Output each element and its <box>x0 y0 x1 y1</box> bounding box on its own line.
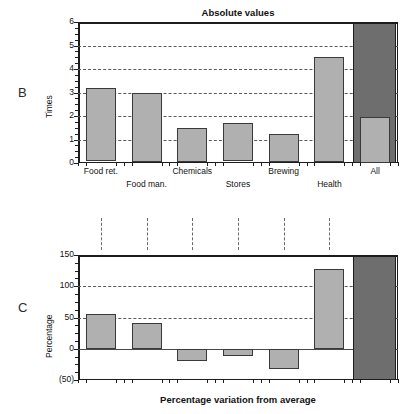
x-tick <box>132 162 133 166</box>
x-tick-label: Stores <box>193 179 283 189</box>
bar-stores <box>223 349 253 356</box>
x-tick <box>124 379 125 383</box>
x-tick-label: Food ret. <box>56 166 146 176</box>
gridline <box>78 93 398 94</box>
x-tick <box>269 379 270 383</box>
x-tick <box>307 162 308 166</box>
figure-root: B Absolute values Times C Percentage Per… <box>0 0 410 414</box>
x-tick <box>390 379 391 383</box>
y-tick <box>75 157 78 158</box>
x-tick <box>360 162 361 166</box>
all-highlight-panel <box>353 257 396 379</box>
y-tick <box>75 325 78 326</box>
chart-plot-area-b <box>78 22 398 163</box>
x-tick <box>398 162 399 166</box>
bar-all <box>360 117 390 163</box>
y-tick <box>75 104 78 105</box>
x-tick <box>253 379 254 383</box>
plot-frame-bottom <box>78 379 398 381</box>
connector-line <box>238 218 239 250</box>
bar-food-ret <box>86 88 116 162</box>
y-tick <box>75 151 78 152</box>
connector-line <box>101 218 102 250</box>
y-tick <box>75 271 78 272</box>
y-tick <box>75 87 78 88</box>
bar-stores <box>223 123 253 161</box>
x-tick <box>162 162 163 166</box>
y-tick <box>75 145 78 146</box>
x-tick <box>86 379 87 383</box>
y-tick <box>75 51 78 52</box>
x-tick <box>360 379 361 383</box>
connector-line <box>192 218 193 250</box>
x-axis-title-percentage-variation: Percentage variation from average <box>78 394 398 405</box>
y-tick-label: 5 <box>32 40 74 50</box>
panel-letter-b: B <box>18 85 27 100</box>
bar-brewing <box>269 134 299 162</box>
bar-food-ret <box>86 314 116 348</box>
bar-chemicals <box>177 349 207 362</box>
y-tick <box>74 69 78 70</box>
y-tick <box>75 98 78 99</box>
gridline <box>78 116 398 117</box>
y-tick <box>75 34 78 35</box>
bar-chemicals <box>177 128 207 162</box>
y-tick <box>74 163 78 164</box>
x-tick <box>177 379 178 383</box>
y-tick <box>74 318 78 319</box>
bar-health <box>314 57 344 161</box>
x-tick <box>215 379 216 383</box>
x-tick <box>344 162 345 166</box>
gridline <box>78 286 398 287</box>
connector-line <box>329 218 330 250</box>
x-tick <box>344 379 345 383</box>
x-tick <box>78 162 79 166</box>
y-tick-label: 6 <box>32 16 74 26</box>
y-tick <box>74 140 78 141</box>
x-tick <box>299 162 300 166</box>
x-tick <box>86 162 87 166</box>
x-tick <box>398 379 399 383</box>
y-tick-label: 150 <box>32 249 74 259</box>
y-tick <box>75 364 78 365</box>
connector-line <box>284 218 285 250</box>
y-tick <box>74 116 78 117</box>
y-tick <box>75 341 78 342</box>
y-tick <box>75 81 78 82</box>
y-tick <box>75 372 78 373</box>
y-tick <box>74 380 78 381</box>
x-tick-label: All <box>330 166 410 176</box>
x-tick <box>261 162 262 166</box>
bar-food-man <box>132 323 162 349</box>
x-tick <box>269 162 270 166</box>
y-tick <box>75 333 78 334</box>
y-tick <box>75 57 78 58</box>
x-tick <box>307 379 308 383</box>
x-tick-label: Health <box>284 179 374 189</box>
y-tick-label: 100 <box>32 280 74 290</box>
x-tick <box>207 162 208 166</box>
x-tick <box>169 162 170 166</box>
x-tick <box>223 379 224 383</box>
y-tick <box>75 278 78 279</box>
bar-health <box>314 269 344 349</box>
x-tick <box>124 162 125 166</box>
y-tick <box>75 28 78 29</box>
gridline <box>78 46 398 47</box>
x-tick-label: Brewing <box>239 166 329 176</box>
y-tick <box>75 263 78 264</box>
y-tick <box>74 93 78 94</box>
y-tick <box>74 255 78 256</box>
x-tick <box>162 379 163 383</box>
x-tick <box>390 162 391 166</box>
y-tick-label: 1 <box>32 134 74 144</box>
y-tick <box>74 286 78 287</box>
y-tick-label: 4 <box>32 63 74 73</box>
y-tick <box>75 134 78 135</box>
y-tick-label: 50 <box>32 312 74 322</box>
x-tick <box>352 162 353 166</box>
y-tick <box>75 357 78 358</box>
x-tick <box>223 162 224 166</box>
y-tick <box>75 294 78 295</box>
x-tick <box>215 162 216 166</box>
